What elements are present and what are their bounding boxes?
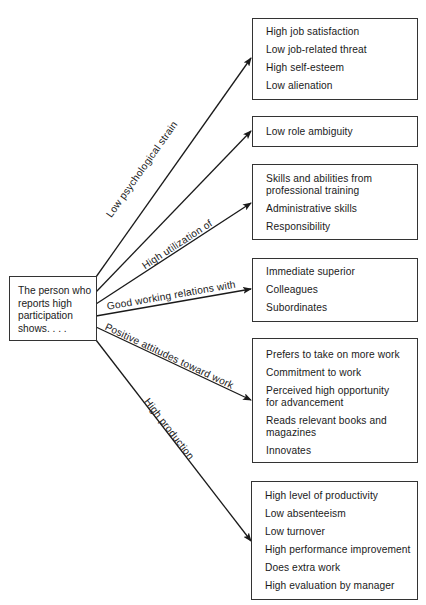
outcome-box-role-ambiguity: Low role ambiguity <box>252 116 418 147</box>
list-item: magazines <box>266 427 316 439</box>
list-item: Administrative skills <box>266 203 357 215</box>
list-item: Does extra work <box>265 562 340 574</box>
source-text: The person who reports high participatio… <box>18 285 91 335</box>
list-item: High performance improvement <box>265 544 411 556</box>
list-item: Prefers to take on more work <box>266 349 400 361</box>
list-item: Low role ambiguity <box>266 126 353 138</box>
outcome-box-attitudes: Prefers to take on more work Commitment … <box>252 338 418 463</box>
list-item: Reads relevant books and <box>266 415 387 427</box>
list-item: Skills and abilities from <box>266 173 372 185</box>
list-item: Low absenteeism <box>265 508 346 520</box>
list-item: Perceived high opportunity <box>266 385 389 397</box>
outcome-box-relations: Immediate superior Colleagues Subordinat… <box>252 258 418 322</box>
list-item: Low job-related threat <box>266 44 367 56</box>
outcome-box-utilization: Skills and abilities from professional t… <box>252 164 418 240</box>
list-item: Responsibility <box>266 221 330 233</box>
list-item: for advancement <box>266 397 343 409</box>
list-item: Low alienation <box>266 80 333 92</box>
outcome-box-production: High level of productivity Low absenteei… <box>251 481 418 600</box>
list-item: professional training <box>266 185 359 197</box>
list-item: Colleagues <box>266 284 318 296</box>
list-item: Immediate superior <box>266 266 355 278</box>
list-item: Subordinates <box>266 302 327 314</box>
list-item: High evaluation by manager <box>265 580 394 592</box>
list-item: Commitment to work <box>266 367 361 379</box>
arrow-role-ambiguity <box>96 131 251 292</box>
list-item: Low turnover <box>265 526 325 538</box>
outcome-box-psych-strain: High job satisfaction Low job-related th… <box>252 18 418 100</box>
list-item: High level of productivity <box>265 490 378 502</box>
list-item: High job satisfaction <box>266 26 359 38</box>
list-item: Innovates <box>266 445 311 457</box>
list-item: High self-esteem <box>266 62 344 74</box>
source-box: The person who reports high participatio… <box>9 276 97 341</box>
